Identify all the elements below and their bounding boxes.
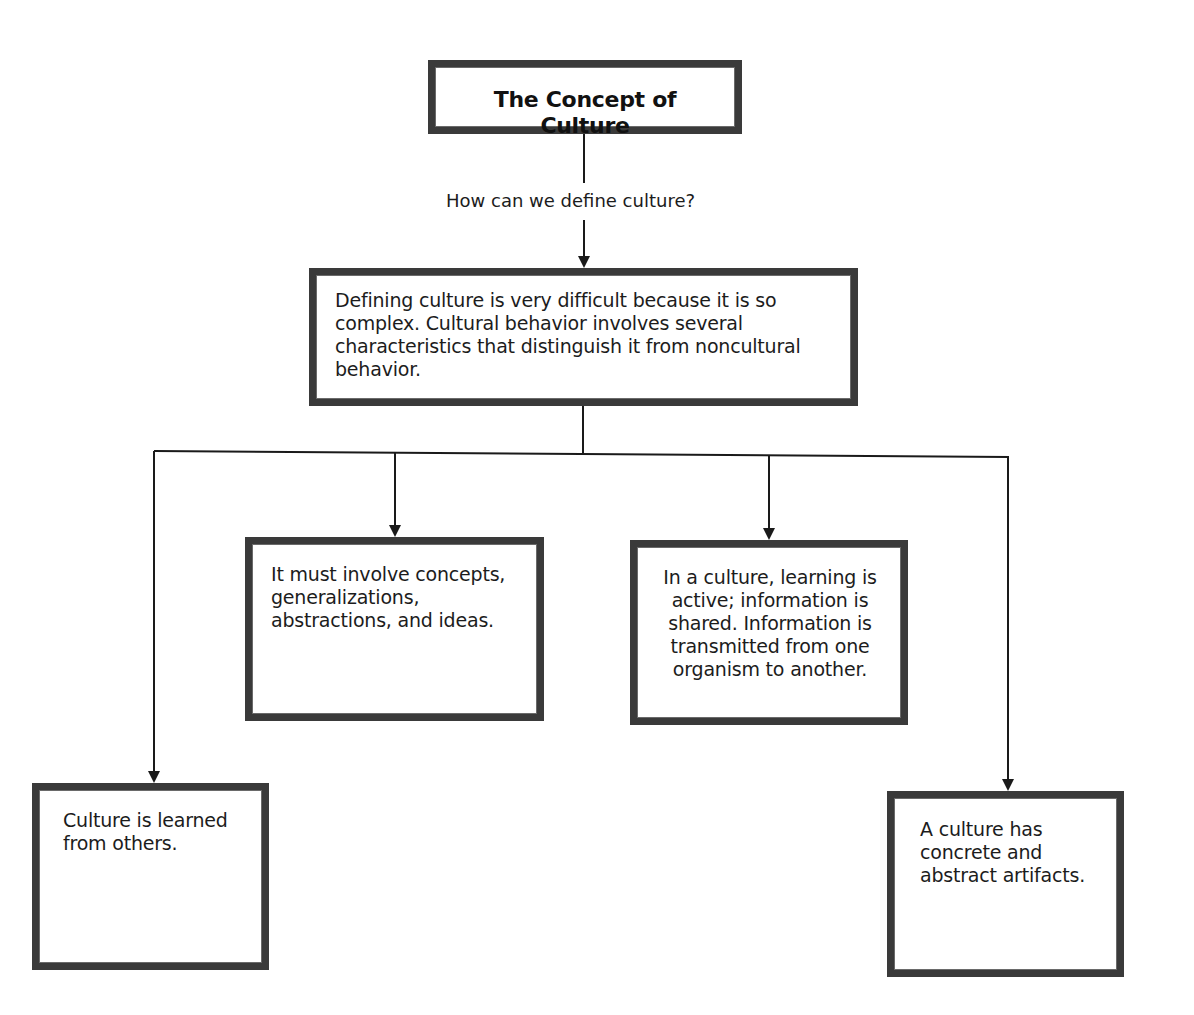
characteristic-text: In a culture, learning is active; inform… bbox=[649, 566, 891, 681]
characteristic-box-shared: In a culture, learning is active; inform… bbox=[630, 540, 908, 725]
diagram-title: The Concept of Culture bbox=[447, 87, 723, 139]
title-box: The Concept of Culture bbox=[428, 60, 742, 134]
characteristic-text: It must involve concepts, generalization… bbox=[271, 563, 536, 632]
characteristic-box-artifacts: A culture has concrete and abstract arti… bbox=[887, 791, 1124, 977]
characteristic-text: A culture has concrete and abstract arti… bbox=[920, 818, 1110, 887]
branch-line bbox=[154, 451, 1009, 457]
arrowhead-icon bbox=[389, 525, 401, 537]
arrowhead-icon bbox=[1002, 779, 1014, 791]
characteristic-box-learned: Culture is learned from others. bbox=[32, 783, 269, 970]
arrowhead-icon bbox=[148, 771, 160, 783]
characteristic-box-concepts: It must involve concepts, generalization… bbox=[245, 537, 544, 721]
definition-box: Defining culture is very difficult becau… bbox=[309, 268, 858, 406]
definition-text: Defining culture is very difficult becau… bbox=[335, 289, 835, 381]
characteristic-text: Culture is learned from others. bbox=[63, 809, 259, 855]
arrowhead-icon bbox=[763, 528, 775, 540]
arrowhead-icon bbox=[578, 256, 590, 268]
question-label: How can we define culture? bbox=[446, 190, 695, 212]
